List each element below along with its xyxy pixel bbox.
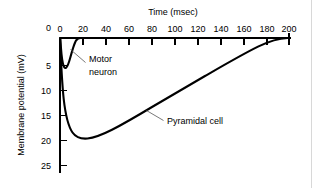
y-tick-label: 10 xyxy=(41,86,51,96)
y-tick-label: 20 xyxy=(41,136,51,146)
x-tick-label: 140 xyxy=(213,24,228,34)
membrane-potential-chart: Time (msec) 0 20 40 60 80 100 120 140 16… xyxy=(0,0,319,188)
motor-neuron-label-line1: Motor xyxy=(89,54,112,64)
y-tick-label: 15 xyxy=(41,111,51,121)
x-tick-label: 180 xyxy=(259,24,274,34)
x-tick-label: 60 xyxy=(124,24,134,34)
x-tick-label: 0 xyxy=(57,24,62,34)
motor-neuron-curve xyxy=(60,38,80,68)
pyramidal-cell-label: Pyramidal cell xyxy=(167,116,223,126)
x-axis-ticks xyxy=(60,33,289,45)
x-tick-label: 20 xyxy=(78,24,88,34)
motor-neuron-leader-line xyxy=(71,50,86,63)
x-tick-label: 80 xyxy=(147,24,157,34)
y-axis-tick-labels: 0 5 10 15 20 25 xyxy=(41,23,51,171)
x-tick-label: 160 xyxy=(236,24,251,34)
x-axis-tick-labels: 0 20 40 60 80 100 120 140 160 180 200 xyxy=(57,24,296,34)
x-tick-label: 120 xyxy=(190,24,205,34)
x-tick-label: 100 xyxy=(167,24,182,34)
x-tick-label: 200 xyxy=(281,24,296,34)
page-edge-line xyxy=(311,0,312,188)
y-tick-label: 5 xyxy=(46,61,51,71)
y-tick-label: 0 xyxy=(46,23,51,33)
motor-neuron-label-line2: neuron xyxy=(89,67,117,77)
x-axis-title: Time (msec) xyxy=(148,7,198,17)
y-axis-title: Membrane potential (mV) xyxy=(16,54,26,156)
y-tick-label: 25 xyxy=(41,161,51,171)
pyramidal-cell-leader-line xyxy=(147,111,164,121)
figure-container: Time (msec) 0 20 40 60 80 100 120 140 16… xyxy=(0,0,319,188)
x-tick-label: 40 xyxy=(101,24,111,34)
